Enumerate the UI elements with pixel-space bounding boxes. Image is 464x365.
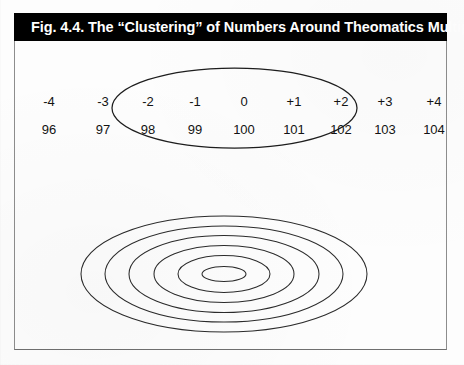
offset-label: -3 — [80, 91, 126, 113]
value-label: 97 — [80, 119, 126, 141]
offset-label: +1 — [271, 91, 317, 113]
offset-label: 0 — [221, 91, 267, 113]
value-label: 103 — [362, 119, 408, 141]
offset-label: +2 — [318, 91, 364, 113]
offset-label: +4 — [411, 91, 457, 113]
value-label: 98 — [125, 119, 171, 141]
number-grid: -4-3-2-10+1+2+3+4 9697989910010110210310… — [14, 41, 447, 161]
offset-row: -4-3-2-10+1+2+3+4 — [14, 91, 447, 113]
value-label: 102 — [318, 119, 364, 141]
offset-label: -1 — [172, 91, 218, 113]
value-row: 96979899100101102103104 — [14, 119, 447, 141]
value-label: 99 — [172, 119, 218, 141]
offset-label: -4 — [26, 91, 72, 113]
value-label: 104 — [411, 119, 457, 141]
figure-container: Fig. 4.4. The “Clustering” of Numbers Ar… — [0, 0, 464, 365]
figure-title: Fig. 4.4. The “Clustering” of Numbers Ar… — [31, 13, 441, 41]
offset-label: +3 — [362, 91, 408, 113]
value-label: 96 — [26, 119, 72, 141]
value-label: 101 — [271, 119, 317, 141]
value-label: 100 — [221, 119, 267, 141]
offset-label: -2 — [125, 91, 171, 113]
figure-title-bar: Fig. 4.4. The “Clustering” of Numbers Ar… — [14, 13, 447, 41]
